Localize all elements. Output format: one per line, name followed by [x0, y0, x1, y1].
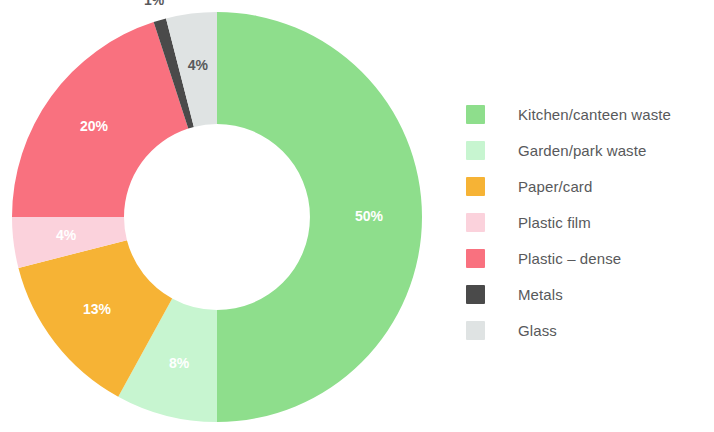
slice-value-label-plastic-dense: 20% — [80, 118, 109, 134]
legend-item-metals[interactable]: Metals — [466, 276, 714, 312]
donut-chart-svg: 50%8%13%4%20%1%4% — [0, 0, 440, 432]
legend-swatch-metals — [466, 285, 485, 304]
slice-value-label-plastic-film: 4% — [56, 227, 77, 243]
slice-value-label-metals: 1% — [144, 0, 165, 8]
legend-swatch-plastic-film — [466, 213, 485, 232]
legend-label-metals: Metals — [518, 286, 563, 303]
waste-composition-donut-chart-figure: 50%8%13%4%20%1%4% Kitchen/canteen wasteG… — [0, 0, 714, 432]
legend-item-kitchen-canteen-waste[interactable]: Kitchen/canteen waste — [466, 96, 714, 132]
slice-value-label-kitchen-canteen-waste: 50% — [355, 208, 384, 224]
legend-swatch-kitchen-canteen-waste — [466, 105, 485, 124]
legend-item-garden-park-waste[interactable]: Garden/park waste — [466, 132, 714, 168]
legend-label-paper-card: Paper/card — [518, 178, 592, 195]
chart-legend: Kitchen/canteen wasteGarden/park wastePa… — [466, 96, 714, 348]
legend-label-kitchen-canteen-waste: Kitchen/canteen waste — [518, 106, 671, 123]
legend-label-plastic-film: Plastic film — [518, 214, 591, 231]
legend-swatch-plastic-dense — [466, 249, 485, 268]
legend-item-plastic-film[interactable]: Plastic film — [466, 204, 714, 240]
legend-swatch-paper-card — [466, 177, 485, 196]
donut-chart-plot-area: 50%8%13%4%20%1%4% — [0, 0, 440, 432]
legend-label-glass: Glass — [518, 322, 557, 339]
slice-value-label-garden-park-waste: 8% — [169, 355, 190, 371]
slice-value-label-paper-card: 13% — [83, 301, 112, 317]
donut-slice-kitchen-canteen-waste[interactable] — [217, 12, 422, 422]
legend-item-plastic-dense[interactable]: Plastic – dense — [466, 240, 714, 276]
legend-swatch-garden-park-waste — [466, 141, 485, 160]
slice-value-label-glass: 4% — [188, 57, 209, 73]
legend-swatch-glass — [466, 321, 485, 340]
legend-item-paper-card[interactable]: Paper/card — [466, 168, 714, 204]
legend-label-plastic-dense: Plastic – dense — [518, 250, 621, 267]
legend-label-garden-park-waste: Garden/park waste — [518, 142, 646, 159]
legend-item-glass[interactable]: Glass — [466, 312, 714, 348]
